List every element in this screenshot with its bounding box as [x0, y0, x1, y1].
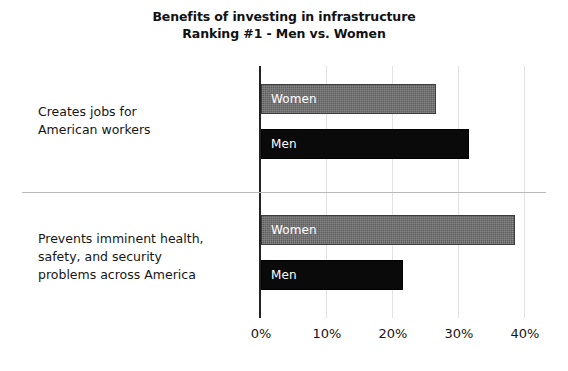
x-tick-label-0: 0%: [251, 326, 272, 341]
category-label-line: Creates jobs for: [38, 103, 248, 121]
category-label-line: Prevents imminent health,: [38, 230, 248, 248]
category-group-separator: [22, 192, 546, 193]
category-label-creates-jobs: Creates jobs for American workers: [38, 103, 248, 139]
bar-prevents-problems-women: Women: [261, 215, 515, 245]
category-label-line: safety, and security: [38, 248, 248, 266]
x-tick-label-4: 40%: [511, 326, 540, 341]
bar-creates-jobs-women: Women: [261, 84, 436, 114]
category-label-line: American workers: [38, 121, 248, 139]
bar-creates-jobs-men: Men: [261, 129, 469, 159]
category-label-prevents-problems: Prevents imminent health, safety, and se…: [38, 230, 248, 284]
bar-label: Men: [271, 268, 297, 282]
bar-label: Women: [271, 223, 317, 237]
bar-label: Women: [271, 92, 317, 106]
x-tick-label-2: 20%: [379, 326, 408, 341]
category-label-line: problems across America: [38, 266, 248, 284]
x-tick-label-3: 30%: [445, 326, 474, 341]
bar-label: Men: [271, 137, 297, 151]
bar-chart-plot-area: Creates jobs for American workers Women …: [0, 0, 568, 371]
x-tick-label-1: 10%: [313, 326, 342, 341]
bar-prevents-problems-men: Men: [261, 260, 403, 290]
